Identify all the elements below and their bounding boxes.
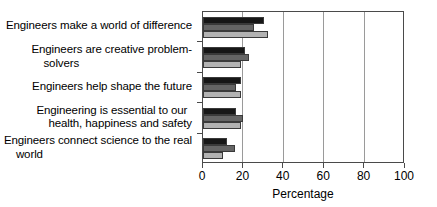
bar bbox=[203, 145, 235, 152]
bar bbox=[203, 122, 241, 129]
bar bbox=[203, 61, 241, 68]
category-label: Engineers connect science to the realwor… bbox=[4, 134, 192, 161]
bar-group bbox=[203, 73, 403, 103]
x-tick-100 bbox=[404, 163, 405, 168]
x-tick-label-60: 60 bbox=[317, 169, 330, 183]
category-label-line: Engineers connect science to the real bbox=[4, 134, 192, 148]
x-tick-40 bbox=[282, 163, 283, 168]
bar-chart-figure: Engineers make a world of differenceEngi… bbox=[0, 0, 437, 207]
x-tick-label-100: 100 bbox=[394, 169, 414, 183]
bar bbox=[203, 138, 227, 145]
bar bbox=[203, 152, 223, 159]
category-label-line: Engineers make a world of difference bbox=[6, 19, 192, 33]
x-tick-20 bbox=[242, 163, 243, 168]
x-tick-label-80: 80 bbox=[357, 169, 370, 183]
x-tick-label-20: 20 bbox=[236, 169, 249, 183]
category-label-group: Engineers make a world of differenceEngi… bbox=[0, 0, 196, 170]
bar bbox=[203, 31, 268, 38]
bar bbox=[203, 108, 236, 115]
x-tick-label-40: 40 bbox=[276, 169, 289, 183]
bar-group bbox=[203, 103, 403, 133]
bar-group bbox=[203, 134, 403, 164]
bar bbox=[203, 84, 236, 91]
category-label: Engineers help shape the future bbox=[32, 80, 192, 94]
category-tick bbox=[197, 133, 202, 134]
bar-group bbox=[203, 12, 403, 42]
category-label: Engineers are creative problem-solvers bbox=[31, 43, 192, 70]
category-tick bbox=[197, 102, 202, 103]
category-label-line: world bbox=[4, 148, 192, 162]
bar-group bbox=[203, 42, 403, 72]
category-label-line: Engineers are creative problem- bbox=[31, 43, 192, 57]
x-tick-80 bbox=[363, 163, 364, 168]
category-tick bbox=[197, 41, 202, 42]
x-tick-0 bbox=[202, 163, 203, 168]
bar bbox=[203, 47, 245, 54]
bar bbox=[203, 77, 241, 84]
bar bbox=[203, 115, 243, 122]
category-label-line: health, happiness and safety bbox=[36, 117, 192, 131]
x-tick-60 bbox=[323, 163, 324, 168]
category-label-line: solvers bbox=[31, 57, 192, 71]
plot-area bbox=[202, 11, 404, 163]
bar bbox=[203, 17, 264, 24]
category-tick bbox=[197, 72, 202, 73]
x-tick-label-0: 0 bbox=[199, 169, 206, 183]
category-label-line: Engineers help shape the future bbox=[32, 80, 192, 94]
bar bbox=[203, 54, 249, 61]
x-axis-title: Percentage bbox=[272, 187, 333, 201]
category-label-line: Engineering is essential to our bbox=[36, 104, 192, 118]
category-label: Engineering is essential to ourhealth, h… bbox=[36, 104, 192, 131]
category-label: Engineers make a world of difference bbox=[6, 19, 192, 33]
bar bbox=[203, 24, 254, 31]
bar bbox=[203, 91, 241, 98]
